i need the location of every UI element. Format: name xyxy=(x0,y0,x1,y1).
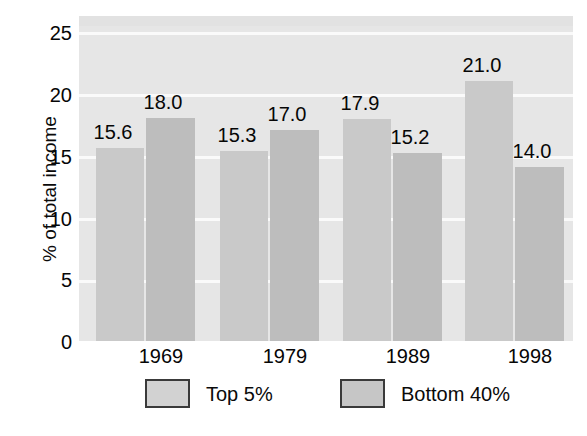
bar-value-1989-bottom40: 15.2 xyxy=(373,127,447,147)
bar-chart: % of total income 25 20 15 10 5 0 15.6 1… xyxy=(0,0,587,436)
legend: Top 5% Bottom 40% xyxy=(0,379,587,423)
bar-value-1979-bottom40: 17.0 xyxy=(250,104,324,124)
x-tick-1969: 1969 xyxy=(111,346,211,366)
legend-entry-bottom40[interactable]: Bottom 40% xyxy=(340,379,510,408)
y-tick-25: 25 xyxy=(28,23,72,43)
plot-top-band xyxy=(79,16,573,26)
bar-1969-top5[interactable] xyxy=(96,148,144,341)
y-axis-ticks: 25 20 15 10 5 0 xyxy=(26,0,72,436)
bar-1989-bottom40[interactable] xyxy=(393,153,442,341)
bar-1979-top5[interactable] xyxy=(220,151,268,341)
gridline-25 xyxy=(79,32,573,35)
y-tick-10: 10 xyxy=(28,209,72,229)
bar-value-1998-top5: 21.0 xyxy=(445,55,519,75)
bar-1989-top5[interactable] xyxy=(343,119,391,341)
bar-value-1969-top5: 15.6 xyxy=(76,122,150,142)
bar-1998-top5[interactable] xyxy=(465,81,513,341)
x-tick-1998: 1998 xyxy=(480,346,580,366)
legend-label-bottom40: Bottom 40% xyxy=(401,384,510,404)
bar-1979-bottom40[interactable] xyxy=(270,130,319,341)
bar-value-1979-top5: 15.3 xyxy=(200,125,274,145)
y-tick-0: 0 xyxy=(28,332,72,352)
bar-1969-bottom40[interactable] xyxy=(146,118,195,341)
legend-label-top5: Top 5% xyxy=(206,384,273,404)
x-tick-1979: 1979 xyxy=(235,346,335,366)
y-tick-15: 15 xyxy=(28,147,72,167)
bar-value-1998-bottom40: 14.0 xyxy=(495,141,569,161)
legend-swatch-bottom40-icon xyxy=(340,379,385,408)
legend-entry-top5[interactable]: Top 5% xyxy=(145,379,273,408)
y-tick-5: 5 xyxy=(28,270,72,290)
bar-1998-bottom40[interactable] xyxy=(515,167,564,341)
legend-swatch-top5-icon xyxy=(145,379,190,408)
bar-value-1969-bottom40: 18.0 xyxy=(126,92,200,112)
x-tick-1989: 1989 xyxy=(358,346,458,366)
bar-value-1989-top5: 17.9 xyxy=(323,93,397,113)
y-tick-20: 20 xyxy=(28,85,72,105)
